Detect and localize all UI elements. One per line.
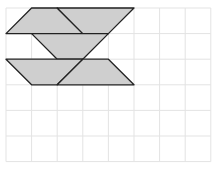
grid-diagram xyxy=(0,0,216,170)
middle-trapezoid xyxy=(32,34,109,60)
grid-svg xyxy=(0,0,216,170)
shapes-layer xyxy=(6,8,134,85)
